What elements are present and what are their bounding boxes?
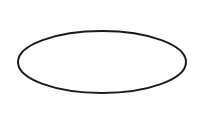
diagram-canvas [0,0,203,121]
ellipse-diagram [0,0,203,121]
ellipse-shape [18,31,186,93]
